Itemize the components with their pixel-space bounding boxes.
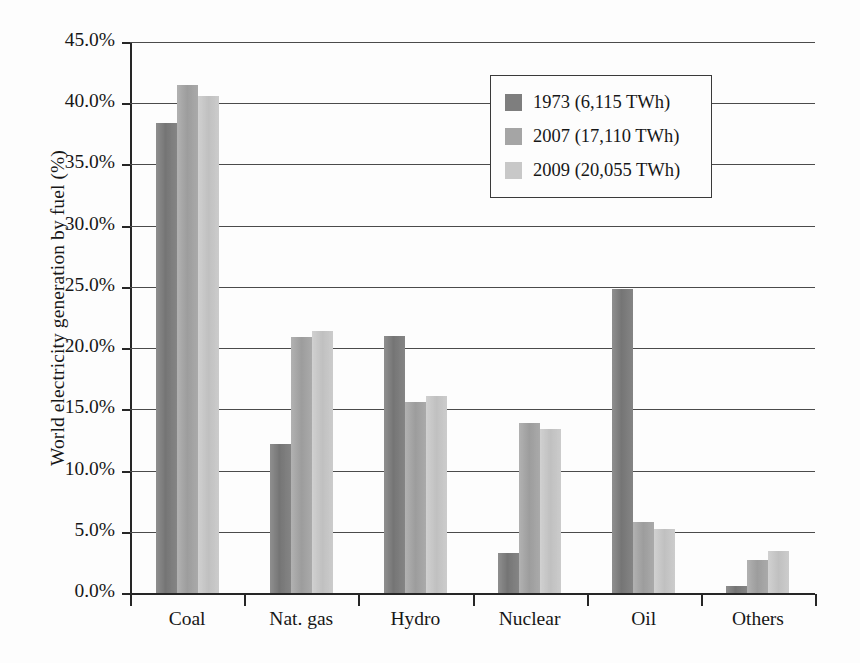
y-axis-tick-label: 35.0%: [0, 151, 115, 173]
gridline: [130, 532, 815, 533]
x-axis-tick: [815, 594, 817, 606]
bar: [654, 529, 675, 593]
legend-swatch-icon: [505, 162, 522, 179]
x-axis-tick: [473, 594, 475, 606]
legend-item: 1973 (6,115 TWh): [491, 85, 711, 119]
bar: [726, 586, 747, 593]
bar: [498, 553, 519, 593]
x-axis-tick: [358, 594, 360, 606]
gridline: [130, 226, 815, 227]
legend-swatch-icon: [505, 128, 522, 145]
y-axis-tick-label: 20.0%: [0, 335, 115, 357]
gridline: [130, 42, 815, 43]
bar: [612, 289, 633, 593]
gridline: [130, 471, 815, 472]
bar: [312, 331, 333, 593]
bar: [633, 522, 654, 593]
gridline: [130, 287, 815, 288]
bar: [540, 429, 561, 593]
x-axis-tick-label: Others: [678, 608, 838, 630]
bar: [291, 337, 312, 593]
x-axis-tick: [130, 594, 132, 606]
plot-area: [130, 42, 815, 593]
bar: [198, 96, 219, 593]
gridline: [130, 409, 815, 410]
gridline: [130, 103, 815, 104]
chart-figure: World electricity generation by fuel (%)…: [0, 0, 860, 663]
y-axis-tick-label: 0.0%: [0, 580, 115, 602]
legend-label: 1973 (6,115 TWh): [533, 92, 670, 113]
legend-item: 2009 (20,055 TWh): [491, 153, 711, 187]
bar: [426, 396, 447, 593]
bar: [519, 423, 540, 593]
legend-label: 2009 (20,055 TWh): [533, 160, 680, 181]
bar: [384, 336, 405, 593]
y-axis-tick-label: 40.0%: [0, 90, 115, 112]
bar: [747, 560, 768, 593]
bar: [768, 551, 789, 593]
x-axis-tick: [587, 594, 589, 606]
gridline: [130, 348, 815, 349]
legend-label: 2007 (17,110 TWh): [533, 126, 679, 147]
chart-legend: 1973 (6,115 TWh)2007 (17,110 TWh)2009 (2…: [490, 75, 712, 198]
y-axis-tick-label: 15.0%: [0, 396, 115, 418]
bar: [156, 123, 177, 593]
bar: [270, 444, 291, 593]
gridline: [130, 164, 815, 165]
bar: [405, 402, 426, 593]
x-axis-tick: [701, 594, 703, 606]
legend-swatch-icon: [505, 94, 522, 111]
y-axis-tick-label: 45.0%: [0, 29, 115, 51]
y-axis-tick-label: 10.0%: [0, 458, 115, 480]
legend-item: 2007 (17,110 TWh): [491, 119, 711, 153]
bar: [177, 85, 198, 593]
y-axis-tick-label: 5.0%: [0, 519, 115, 541]
y-axis-tick-label: 25.0%: [0, 274, 115, 296]
x-axis-tick: [244, 594, 246, 606]
y-axis-tick-label: 30.0%: [0, 213, 115, 235]
